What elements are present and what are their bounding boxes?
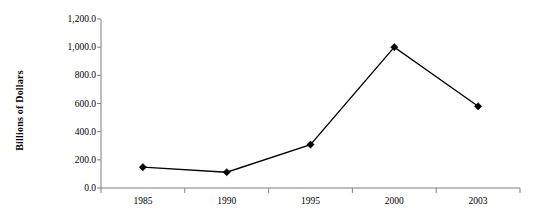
series-line	[143, 47, 478, 172]
plot-area	[0, 0, 546, 221]
data-point-marker	[223, 169, 230, 176]
data-point-marker	[139, 164, 146, 171]
axis-ticks	[97, 19, 520, 193]
data-markers	[139, 44, 481, 176]
line-chart: Billions of Dollars 0.0200.0400.0600.080…	[0, 0, 546, 221]
data-series	[143, 47, 478, 172]
axis-lines	[101, 19, 520, 188]
